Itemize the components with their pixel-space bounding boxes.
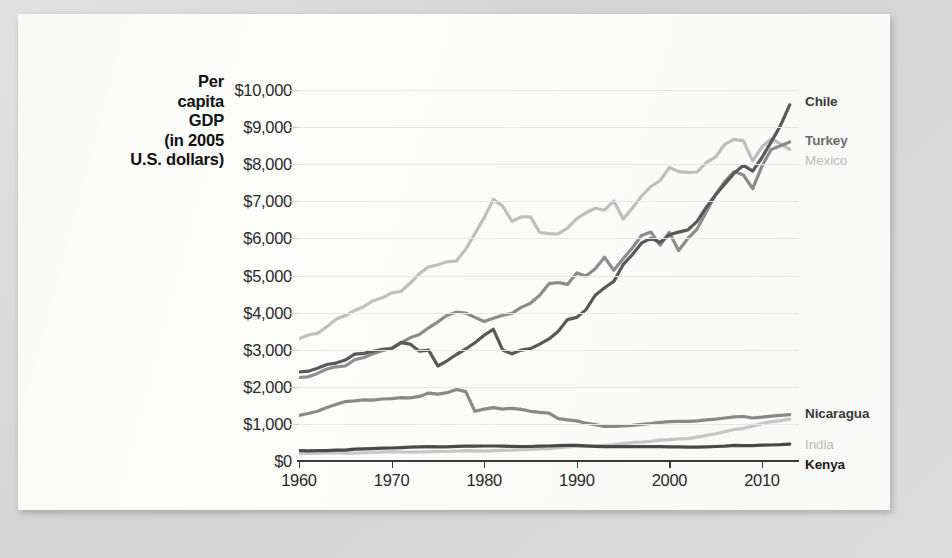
series-label-chile: Chile xyxy=(805,94,838,109)
gridline xyxy=(299,201,799,202)
y-axis-tick xyxy=(290,424,299,425)
gridline xyxy=(299,276,799,277)
y-axis-tick-label: $1,000 xyxy=(243,414,292,433)
gridline xyxy=(299,424,799,425)
y-axis-tick-label: $4,000 xyxy=(243,303,292,322)
y-axis-tick-label: $6,000 xyxy=(243,229,292,248)
y-axis-tick xyxy=(290,127,299,128)
y-axis-tick xyxy=(290,164,299,165)
scanned-background: Per capita GDP (in 2005 U.S. dollars) $0… xyxy=(0,0,952,558)
x-axis-tick-label: 1980 xyxy=(466,471,502,490)
y-axis-tick xyxy=(290,276,299,277)
y-axis-tick-label: $7,000 xyxy=(243,192,292,211)
y-axis-tick-label: $10,000 xyxy=(234,81,292,100)
series-label-india: India xyxy=(805,437,834,452)
y-axis-tick xyxy=(290,313,299,314)
series-label-turkey: Turkey xyxy=(805,133,848,148)
x-axis-tick-label: 1970 xyxy=(374,471,410,490)
y-axis-tick-label: $8,000 xyxy=(243,155,292,174)
gridline xyxy=(299,127,799,128)
page-sheet: Per capita GDP (in 2005 U.S. dollars) $0… xyxy=(18,14,890,510)
y-axis-tick xyxy=(290,201,299,202)
line-chart-plot-area xyxy=(299,90,799,461)
x-axis-tick-label: 2000 xyxy=(652,471,688,490)
gridline xyxy=(299,164,799,165)
y-axis-tick-label: $0 xyxy=(274,452,292,471)
gridline xyxy=(299,313,799,314)
y-axis-tick-label: $2,000 xyxy=(243,377,292,396)
y-axis-title-line-1: Per xyxy=(112,72,224,92)
gridline xyxy=(299,350,799,351)
y-axis-tick-label: $9,000 xyxy=(243,118,292,137)
gridline xyxy=(299,387,799,388)
y-axis-tick xyxy=(290,90,299,91)
y-axis-title-line-4: (in 2005 xyxy=(112,131,224,151)
x-axis-tick-label: 1990 xyxy=(559,471,595,490)
x-axis-tick-label: 2010 xyxy=(744,471,780,490)
line-series-nicaragua xyxy=(299,389,790,426)
x-axis-tick-labels: 196019701980199020002010 xyxy=(299,461,799,491)
y-axis-tick-label: $3,000 xyxy=(243,340,292,359)
y-axis-tick xyxy=(290,350,299,351)
gridline xyxy=(299,238,799,239)
y-axis-tick-labels: $0$1,000$2,000$3,000$4,000$5,000$6,000$7… xyxy=(214,90,292,461)
gridline xyxy=(299,90,799,91)
x-axis-tick-label: 1960 xyxy=(281,471,317,490)
y-axis-title: Per capita GDP (in 2005 U.S. dollars) xyxy=(112,72,224,170)
series-label-nicaragua: Nicaragua xyxy=(805,406,869,421)
y-axis-title-line-2: capita xyxy=(112,92,224,112)
y-axis-tick xyxy=(290,387,299,388)
series-label-kenya: Kenya xyxy=(805,457,845,472)
y-axis-tick xyxy=(290,238,299,239)
y-axis-title-line-3: GDP xyxy=(112,111,224,131)
y-axis-title-line-5: U.S. dollars) xyxy=(112,150,224,170)
series-label-mexico: Mexico xyxy=(805,153,847,168)
y-axis-tick-label: $5,000 xyxy=(243,266,292,285)
